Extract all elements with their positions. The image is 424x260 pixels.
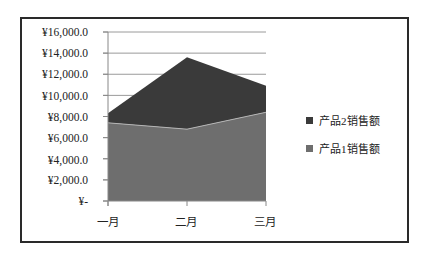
legend-item-product2: 产品2销售额: [306, 112, 380, 128]
legend-item-product1: 产品1销售额: [306, 140, 380, 156]
legend-label: 产品1销售额: [319, 140, 380, 156]
legend-label: 产品2销售额: [319, 112, 380, 128]
x-tick-label: 一月: [97, 213, 119, 229]
legend-swatch-icon: [306, 145, 313, 152]
x-tick-label: 二月: [175, 213, 197, 229]
y-tick-label: ¥16,000.0: [42, 26, 88, 38]
y-tick-label: ¥10,000.0: [42, 90, 88, 102]
y-tick-label: ¥2,000.0: [48, 174, 88, 186]
y-tick-label: ¥12,000.0: [42, 68, 88, 80]
y-tick-label: ¥8,000.0: [48, 111, 88, 123]
legend-swatch-icon: [306, 117, 313, 124]
y-tick-label: ¥4,000.0: [48, 154, 88, 166]
y-tick-label: ¥-: [78, 195, 88, 207]
y-tick-label: ¥6,000.0: [48, 132, 88, 144]
x-tick-label: 三月: [254, 213, 276, 229]
y-tick-label: ¥14,000.0: [42, 47, 88, 59]
plot-area: [0, 0, 424, 260]
